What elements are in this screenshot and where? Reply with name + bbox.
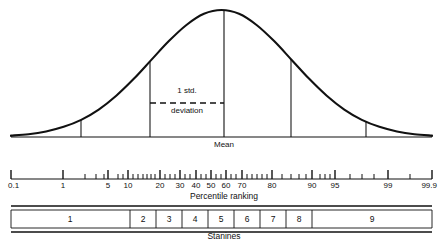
- percentile-tick-label: 70: [238, 181, 247, 190]
- percentile-tick-label: 0.1: [8, 181, 19, 190]
- stanine-cell-7: 7: [271, 215, 276, 224]
- std-deviation-label-line1: 1 std.: [177, 86, 197, 95]
- stanine-cell-6: 6: [245, 215, 250, 224]
- percentile-axis-caption: Percentile ranking: [190, 191, 258, 201]
- percentile-tick-label: 20: [156, 181, 165, 190]
- percentile-tick-label: 5: [106, 181, 110, 190]
- stanines-caption: Stanines: [207, 231, 240, 241]
- stanine-cell-4: 4: [193, 215, 198, 224]
- percentile-tick-label: 80: [268, 181, 277, 190]
- percentile-tick-label: 99: [384, 181, 393, 190]
- percentile-axis-group: [11, 170, 432, 179]
- stanine-cell-5: 5: [219, 215, 224, 224]
- percentile-tick-label: 40: [192, 181, 201, 190]
- percentile-tick-label: 10: [124, 181, 133, 190]
- stanine-cell-2: 2: [141, 215, 146, 224]
- stanine-cell-1: 1: [68, 215, 73, 224]
- percentile-minor-ticks: [85, 174, 410, 179]
- stanine-cell-3: 3: [167, 215, 172, 224]
- distribution-figure: Mean 1 std. deviation 0.1151020304050607…: [0, 0, 443, 248]
- percentile-tick-label: 99.9: [421, 181, 437, 190]
- percentile-tick-label: 90: [308, 181, 317, 190]
- mean-label: Mean: [214, 140, 234, 149]
- stanine-cell-8: 8: [297, 215, 302, 224]
- percentile-tick-label: 60: [222, 181, 231, 190]
- figure-canvas: [0, 0, 443, 248]
- percentile-tick-label: 30: [176, 181, 185, 190]
- std-deviation-label-line2: deviation: [171, 106, 203, 115]
- percentile-tick-label: 95: [331, 181, 340, 190]
- curve-group: [11, 10, 432, 137]
- normal-curve-path: [11, 10, 432, 136]
- percentile-tick-label: 1: [61, 181, 65, 190]
- stanine-cell-9: 9: [370, 215, 375, 224]
- percentile-tick-label: 50: [207, 181, 216, 190]
